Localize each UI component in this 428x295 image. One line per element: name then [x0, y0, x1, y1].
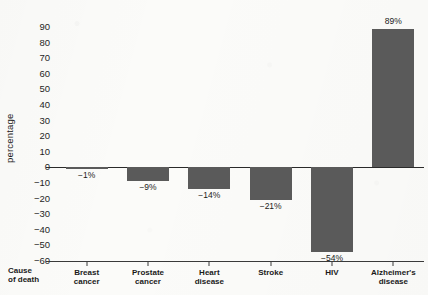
bar-value-label: −54%: [321, 254, 343, 263]
y-axis-tick-label: 40: [39, 100, 50, 110]
x-axis-category-label: Heart disease: [195, 268, 224, 287]
bar-chart: percentage Cause of death 90807060504030…: [0, 0, 428, 295]
x-axis-tick: [86, 261, 87, 266]
bar-value-label: −14%: [198, 191, 220, 200]
y-axis-tick-label: −20: [34, 194, 50, 204]
x-axis-category-label: Breast cancer: [74, 268, 100, 287]
y-axis-tick-label: 70: [39, 53, 50, 63]
y-axis-tick-label: 20: [39, 131, 50, 141]
y-axis-title: percentage: [4, 113, 15, 163]
y-axis-tick-label: −30: [34, 209, 50, 219]
x-axis-category-label: Alzheimer's disease: [371, 268, 416, 287]
y-axis-tick-label: 10: [39, 147, 50, 157]
bar: [66, 167, 108, 169]
plot-area: 9080706050403020100−10−20−30−40−50−60 −1…: [56, 27, 424, 261]
x-axis-title: Cause of death: [8, 266, 39, 285]
x-axis-category-label: Prostate cancer: [132, 268, 164, 287]
x-axis-tick: [209, 261, 210, 266]
y-axis-tick-label: −50: [34, 241, 50, 251]
bar-value-label: −21%: [260, 202, 282, 211]
x-axis-category-label: HIV: [325, 268, 338, 277]
bar-value-label: 89%: [385, 17, 402, 26]
y-axis-tick-label: −40: [34, 225, 50, 235]
bar: [311, 167, 353, 251]
y-axis-tick-label: 50: [39, 85, 50, 95]
bar-value-label: −1%: [78, 171, 95, 180]
y-axis-tick-label: 60: [39, 69, 50, 79]
y-axis-tick-label: 80: [39, 38, 50, 48]
bar: [188, 167, 230, 189]
x-axis-tick: [148, 261, 149, 266]
y-axis-tick-label: 90: [39, 22, 50, 32]
bar-value-label: −9%: [139, 183, 156, 192]
x-axis-tick: [270, 261, 271, 266]
bar: [127, 167, 169, 181]
x-axis-line: [46, 261, 424, 262]
x-axis-category-label: Stroke: [258, 268, 283, 277]
y-axis-tick-label: 30: [39, 116, 50, 126]
y-axis-tick-label: −10: [34, 178, 50, 188]
x-axis-tick: [393, 261, 394, 266]
bar: [250, 167, 292, 200]
bar: [372, 29, 414, 168]
